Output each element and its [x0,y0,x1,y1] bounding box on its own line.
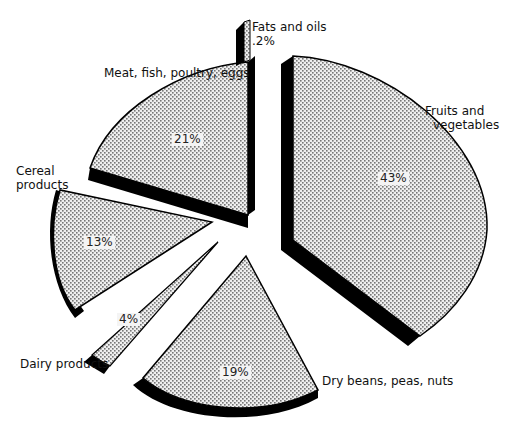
label-fruits: Fruits and vegetables [425,104,499,132]
slice-fruits-vegetables [281,56,487,346]
label-fruits-line2: vegetables [425,118,499,132]
label-fats-oils-value: .2% [252,34,327,48]
label-fats-oils-name: Fats and oils [252,20,327,34]
label-dairy: Dairy products [20,357,108,371]
percent-meat: 21% [172,133,203,146]
label-fats-oils: Fats and oils .2% [252,20,327,48]
slice-dry-beans [133,256,318,417]
label-fruits-line1: Fruits and [425,104,499,118]
percent-dry-beans: 19% [220,366,251,379]
label-cereal-line1: Cereal [16,164,68,178]
percent-cereal: 13% [84,236,115,249]
label-dry-beans: Dry beans, peas, nuts [322,374,453,388]
percent-fruits: 43% [378,172,409,185]
slice-fats-oils [236,20,250,66]
percent-dairy: 4% [117,313,140,326]
label-meat: Meat, fish, poultry, eggs [104,66,250,80]
label-cereal: Cereal products [16,164,68,192]
label-cereal-line2: products [16,178,68,192]
